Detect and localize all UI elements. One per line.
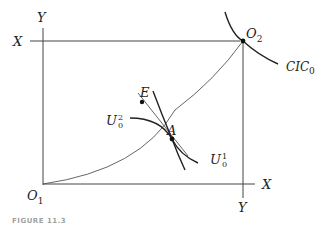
price-line xyxy=(138,93,188,156)
figure-caption: FIGURE 11.3 xyxy=(12,217,66,225)
point-e-label: E xyxy=(140,86,150,99)
origin-o1-label: O1 xyxy=(27,189,43,206)
indifference-curve-u02 xyxy=(130,118,198,163)
left-y-label: Y xyxy=(37,11,46,24)
u02-label: U20 xyxy=(106,114,123,129)
u01-label: U10 xyxy=(210,153,227,168)
right-y-label: Y xyxy=(238,201,247,214)
point-a-label: A xyxy=(167,124,176,137)
top-x-label: X xyxy=(13,35,22,48)
cic-label: CIC0 xyxy=(286,61,315,76)
origin-o2-label: O2 xyxy=(246,27,262,44)
edgeworth-box-diagram xyxy=(0,0,323,226)
point-e xyxy=(140,100,144,104)
origin-o2-dot xyxy=(241,39,246,44)
bottom-x-label: X xyxy=(262,178,271,191)
